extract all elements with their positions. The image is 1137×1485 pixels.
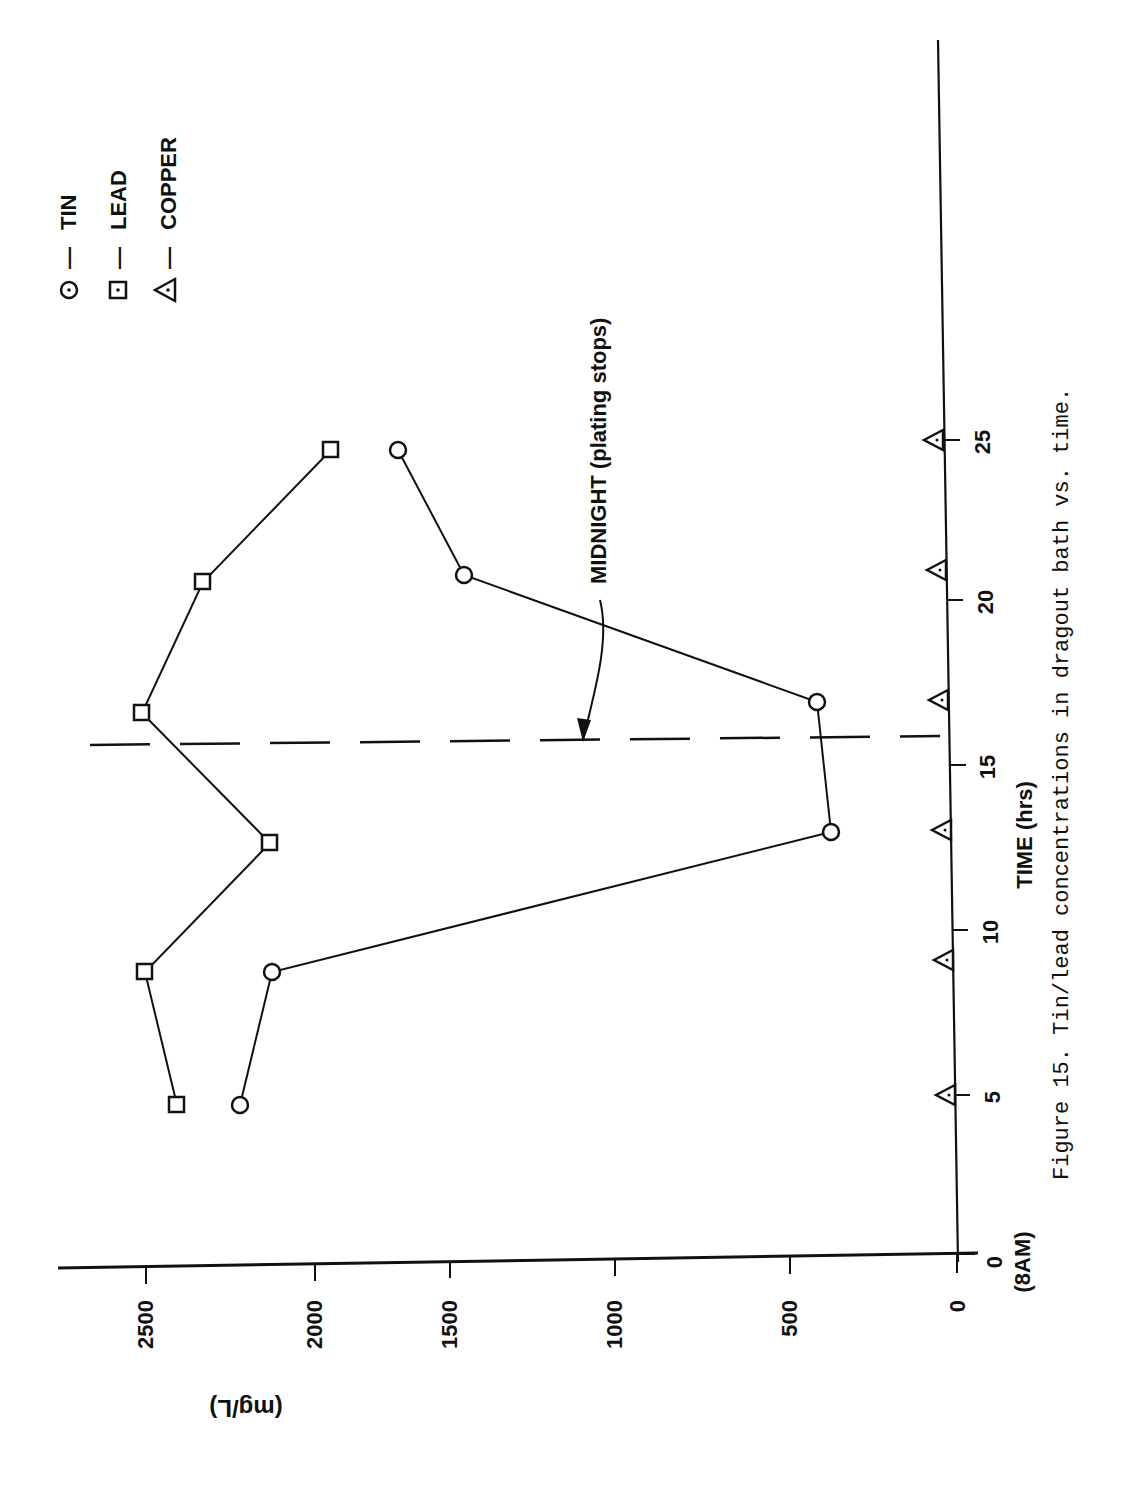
svg-text:—: — (56, 247, 81, 269)
svg-text:—: — (106, 247, 131, 269)
svg-text:10: 10 (978, 920, 1003, 944)
svg-text:25: 25 (970, 430, 995, 454)
arrow-head-icon (577, 718, 591, 742)
series-lead-line (142, 450, 331, 1105)
x-tick-labels: 0 5 10 15 20 25 (970, 430, 1007, 1268)
svg-text:2000: 2000 (302, 1300, 327, 1349)
svg-text:5: 5 (980, 1091, 1005, 1103)
x-axis-line (938, 40, 958, 1262)
legend: — — — TIN LEAD COPPER (56, 137, 181, 301)
copper-triangle-icon (155, 279, 175, 301)
annotation-label: MIDNIGHT (plating stops) (586, 318, 611, 584)
svg-text:1500: 1500 (437, 1300, 462, 1349)
legend-label-tin: TIN (56, 195, 81, 230)
series-lead-markers (134, 442, 338, 1112)
svg-text:0: 0 (945, 1300, 970, 1312)
y-axis-line (58, 1253, 978, 1268)
copper-dots (936, 439, 951, 1097)
series-tin-line (240, 450, 831, 1105)
legend-label-copper: COPPER (156, 137, 181, 230)
x-axis-label: TIME (hrs) (1012, 781, 1037, 889)
svg-text:0: 0 (982, 1256, 1007, 1268)
x-ticks (944, 440, 975, 1254)
figure-caption: Figure 15. Tin/lead concentrations in dr… (1050, 388, 1075, 1180)
series-tin-markers (232, 442, 839, 1113)
midnight-line (90, 736, 940, 745)
svg-text:—: — (156, 247, 181, 269)
y-ticks (146, 1253, 957, 1284)
svg-text:500: 500 (777, 1300, 802, 1337)
svg-text:2500: 2500 (133, 1300, 158, 1349)
x-origin-note: (8AM) (1010, 1231, 1035, 1292)
svg-text:20: 20 (973, 590, 998, 614)
svg-text:1000: 1000 (602, 1300, 627, 1349)
svg-text:15: 15 (975, 755, 1000, 779)
legend-label-lead: LEAD (106, 170, 131, 230)
y-tick-labels: 0 500 1000 1500 2000 2500 (133, 1300, 970, 1349)
y-axis-label: (mg/L) (209, 1395, 282, 1422)
chart: 0 5 10 15 20 25 (8AM) TIME (hrs) 0 500 1… (0, 0, 1137, 1485)
